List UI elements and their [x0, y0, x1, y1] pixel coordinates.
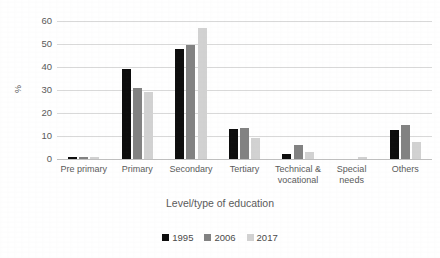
plot-wrapper: % 0102030405060 Pre primaryPrimarySecond…	[0, 0, 440, 258]
bar	[68, 157, 77, 159]
bar-group	[378, 21, 432, 159]
bar	[412, 142, 421, 159]
category-label-line: Others	[370, 164, 440, 175]
legend-swatch	[204, 234, 211, 241]
legend-item[interactable]: 1995	[162, 232, 193, 243]
bar	[390, 130, 399, 159]
bar	[198, 28, 207, 159]
bar	[79, 157, 88, 159]
y-tick-60: 60	[22, 16, 52, 26]
x-axis-line	[57, 159, 432, 160]
legend-swatch	[247, 234, 254, 241]
bar	[358, 157, 367, 159]
bar	[133, 88, 142, 159]
bar	[240, 128, 249, 159]
y-tick-40: 40	[22, 62, 52, 72]
legend-label: 2017	[257, 232, 278, 243]
bar	[401, 125, 410, 160]
bar	[186, 45, 195, 159]
bar-group	[111, 21, 165, 159]
legend-swatch	[162, 234, 169, 241]
bar	[305, 152, 314, 159]
y-tick-30: 30	[22, 85, 52, 95]
bar-group	[218, 21, 272, 159]
legend-label: 1995	[172, 232, 193, 243]
y-tick-10: 10	[22, 131, 52, 141]
bar-group	[271, 21, 325, 159]
y-tick-50: 50	[22, 39, 52, 49]
y-tick-0: 0	[22, 154, 52, 164]
y-tick-20: 20	[22, 108, 52, 118]
bar-group	[164, 21, 218, 159]
bar	[175, 49, 184, 159]
legend-item[interactable]: 2006	[204, 232, 235, 243]
bar	[90, 157, 99, 159]
plot-area	[57, 21, 432, 159]
bar-group	[57, 21, 111, 159]
bar	[282, 154, 291, 159]
bar	[229, 129, 238, 159]
category-label: Others	[370, 164, 440, 175]
x-axis-title: Level/type of education	[0, 197, 440, 209]
chart-legend: 199520062017	[0, 232, 440, 243]
bar	[251, 138, 260, 159]
bar	[144, 92, 153, 159]
bar	[122, 69, 131, 159]
legend-label: 2006	[214, 232, 235, 243]
bar	[294, 145, 303, 159]
bar-chart-figure: % 0102030405060 Pre primaryPrimarySecond…	[0, 0, 440, 258]
legend-item[interactable]: 2017	[247, 232, 278, 243]
category-label-line: needs	[317, 175, 387, 186]
bar-group	[325, 21, 379, 159]
